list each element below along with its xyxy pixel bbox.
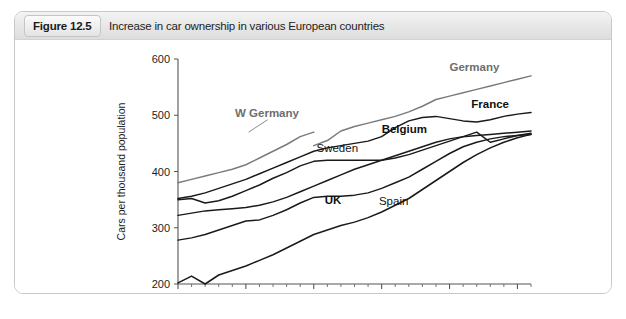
figure-card: Figure 12.5 Increase in car ownership in… xyxy=(14,11,612,294)
x-tick-label: 1985 xyxy=(234,292,258,294)
series-line-w-germany xyxy=(178,132,314,183)
figure-header: Figure 12.5 Increase in car ownership in… xyxy=(15,12,611,40)
x-tick-label: 2005 xyxy=(505,292,529,294)
x-tick-label: 2000 xyxy=(437,292,461,294)
series-label-france: France xyxy=(471,98,509,110)
chart-plot-area: 200300400500600198019851990199520002005C… xyxy=(15,40,611,294)
series-label-sweden: Sweden xyxy=(316,142,358,154)
y-axis-title: Cars per thousand population xyxy=(115,102,127,240)
y-tick-label: 500 xyxy=(152,109,170,121)
y-tick-label: 300 xyxy=(152,222,170,234)
figure-caption: Increase in car ownership in various Eur… xyxy=(109,12,384,39)
y-tick-label: 200 xyxy=(152,278,170,290)
x-tick-label: 1980 xyxy=(166,292,190,294)
chart-axes: 200300400500600198019851990199520002005C… xyxy=(115,53,531,294)
leader-line-w-germany xyxy=(249,120,268,132)
y-tick-label: 400 xyxy=(152,166,170,178)
line-chart: 200300400500600198019851990199520002005C… xyxy=(15,40,611,294)
y-tick-label: 600 xyxy=(152,53,170,65)
series-label-belgium: Belgium xyxy=(382,123,427,135)
series-label-uk: UK xyxy=(325,194,342,206)
figure-number-badge: Figure 12.5 xyxy=(24,15,101,37)
x-tick-label: 1990 xyxy=(302,292,326,294)
series-line-france xyxy=(178,112,531,198)
x-tick-label: 1995 xyxy=(369,292,393,294)
series-label-spain: Spain xyxy=(379,195,408,207)
series-label-w-germany: W Germany xyxy=(235,107,300,119)
series-label-germany: Germany xyxy=(450,61,500,73)
